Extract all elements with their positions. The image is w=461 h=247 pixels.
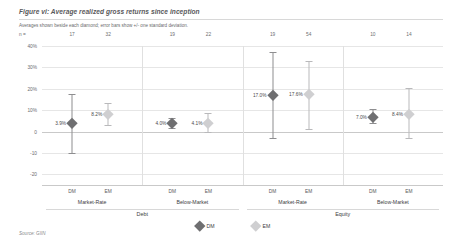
error-bar-cap-upper — [405, 88, 412, 89]
series-label-dm: DM — [369, 189, 376, 194]
group-label: Below-Market — [377, 199, 409, 205]
figure-title: Figure vi: Average realized gross return… — [19, 8, 200, 15]
legend-diamond-icon — [250, 220, 261, 231]
plot-area: 3.9%8.2%4.0%4.1%17.0%17.6%7.0%8.4% — [42, 46, 443, 185]
data-point-dm — [368, 111, 379, 122]
y-axis-tick-label: 30% — [27, 65, 37, 70]
super-group-label: Equity — [335, 211, 350, 217]
y-axis-tick-label: -20 — [30, 172, 37, 177]
y-axis-tick-label: 40% — [27, 44, 37, 49]
legend-item-dm[interactable]: DM — [196, 222, 215, 230]
y-axis-tick-label: 20% — [27, 86, 37, 91]
error-bar-cap-lower — [269, 138, 276, 139]
data-point-em — [303, 89, 314, 100]
y-axis-ticks: 40%30%20%10%0-10-20 — [0, 46, 40, 185]
data-point-value-label: 7.0% — [356, 114, 367, 119]
group-separator — [243, 46, 244, 185]
data-point-value-label: 8.2% — [91, 112, 102, 117]
legend-diamond-icon — [194, 220, 205, 231]
error-bar-cap-upper — [305, 61, 312, 62]
source-note: Source: GIIN — [19, 231, 46, 236]
series-label-em: EM — [405, 189, 412, 194]
sample-size-value: 14 — [406, 32, 411, 37]
title-divider — [19, 19, 443, 20]
error-bar-cap-upper — [69, 94, 76, 95]
series-label-dm: DM — [68, 189, 75, 194]
y-axis-tick-label: -10 — [30, 150, 37, 155]
data-point-value-label: 8.4% — [392, 111, 403, 116]
series-label-dm: DM — [269, 189, 276, 194]
error-bar-cap-upper — [269, 52, 276, 53]
sample-size-value: 32 — [105, 32, 110, 37]
error-bar-cap-upper — [205, 113, 212, 114]
error-bar-cap-upper — [369, 109, 376, 110]
data-point-value-label: 4.0% — [155, 120, 166, 125]
super-group-rule — [46, 209, 239, 210]
group-label: Market-Rate — [278, 199, 307, 205]
chart-legend: DMEM — [0, 218, 461, 232]
data-point-dm — [67, 118, 78, 129]
figure-container: Figure vi: Average realized gross return… — [0, 0, 461, 247]
error-bar-cap-lower — [69, 153, 76, 154]
data-point-em — [203, 117, 214, 128]
legend-item-em[interactable]: EM — [252, 222, 270, 230]
data-point-value-label: 3.9% — [55, 121, 66, 126]
group-separator — [343, 46, 344, 185]
group-label: Market-Rate — [78, 199, 107, 205]
error-bar-cap-lower — [305, 129, 312, 130]
data-point-value-label: 4.1% — [191, 120, 202, 125]
sample-size-value: 22 — [206, 32, 211, 37]
y-axis-tick-label: 10% — [27, 108, 37, 113]
sample-size-row: 1732192219541014 — [0, 32, 461, 42]
sample-size-value: 54 — [306, 32, 311, 37]
category-axis-line — [42, 185, 443, 186]
error-bar-cap-lower — [205, 132, 212, 133]
error-bar-cap-lower — [405, 138, 412, 139]
figure-subtitle: Averages shown beside each diamond; erro… — [19, 23, 188, 28]
sample-size-value: 17 — [69, 32, 74, 37]
group-separator — [142, 46, 143, 185]
series-label-em: EM — [305, 189, 312, 194]
series-label-em: EM — [205, 189, 212, 194]
series-label-dm: DM — [169, 189, 176, 194]
data-point-value-label: 17.6% — [289, 91, 303, 96]
error-bar-cap-upper — [105, 103, 112, 104]
super-group-rule — [247, 209, 440, 210]
sample-size-value: 10 — [370, 32, 375, 37]
sample-size-value: 19 — [170, 32, 175, 37]
error-bar-cap-lower — [105, 125, 112, 126]
legend-label: EM — [263, 223, 271, 229]
error-bar-cap-lower — [369, 123, 376, 124]
sample-size-value: 19 — [270, 32, 275, 37]
data-point-dm — [267, 90, 278, 101]
super-group-label: Debt — [137, 211, 148, 217]
series-label-em: EM — [105, 189, 112, 194]
y-axis-tick-label: 0 — [34, 129, 37, 134]
data-point-value-label: 17.0% — [253, 93, 267, 98]
error-bar-cap-lower — [169, 128, 176, 129]
data-point-dm — [167, 118, 178, 129]
group-label: Below-Market — [177, 199, 209, 205]
legend-label: DM — [207, 223, 215, 229]
